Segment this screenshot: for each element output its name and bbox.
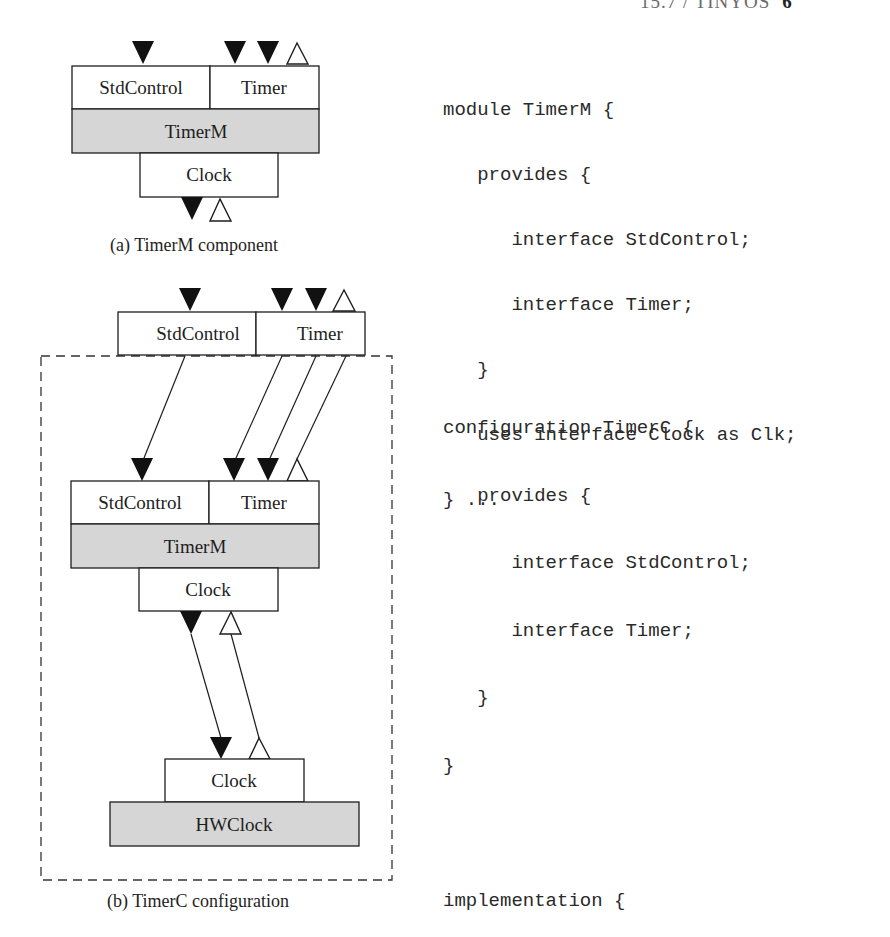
event-triangle-icon xyxy=(210,199,231,221)
wire-timer-command xyxy=(236,356,282,458)
provided-command-triangle-icon xyxy=(131,458,153,481)
interface-label: Clock xyxy=(186,164,232,185)
interface-label: StdControl xyxy=(99,77,182,98)
provided-command-triangle-icon xyxy=(257,458,279,481)
code-line xyxy=(443,823,831,847)
component-label: TimerM xyxy=(165,121,228,142)
provided-command-triangle-icon xyxy=(223,458,245,481)
component-label: TimerM xyxy=(164,536,227,557)
used-command-triangle-icon xyxy=(180,611,202,634)
interface-label: Timer xyxy=(241,492,287,513)
interface-label: Timer xyxy=(297,323,343,344)
provided-command-triangle-icon xyxy=(210,737,232,759)
code-line: interface Timer; xyxy=(443,620,831,644)
code-line: interface StdControl; xyxy=(443,230,796,251)
provided-command-triangle-icon xyxy=(224,41,246,64)
provided-command-triangle-icon xyxy=(179,288,201,311)
wire-timer-event xyxy=(297,356,346,459)
interface-label: Clock xyxy=(211,770,257,791)
code-line: } xyxy=(443,687,831,711)
figure-a-caption: (a) TimerM component xyxy=(110,235,278,256)
provided-command-triangle-icon xyxy=(271,288,293,311)
code-line: implementation { xyxy=(443,890,831,914)
code-listing-configuration-timerc: configuration TimerC { provides { interf… xyxy=(443,373,831,937)
interface-label: Clock xyxy=(185,579,231,600)
used-command-triangle-icon xyxy=(181,197,203,220)
wire-stdcontrol xyxy=(144,356,185,458)
event-triangle-icon xyxy=(287,43,308,64)
code-line: provides { xyxy=(443,165,796,186)
interface-label: StdControl xyxy=(98,492,181,513)
code-line: provides { xyxy=(443,485,831,509)
wire-clock-event xyxy=(231,634,259,738)
figure-b-caption: (b) TimerC configuration xyxy=(107,891,289,912)
component-label: HWClock xyxy=(195,814,273,835)
event-triangle-icon xyxy=(220,612,241,634)
interface-label: StdControl xyxy=(156,323,239,344)
wire-clock-command xyxy=(191,634,221,738)
event-triangle-icon xyxy=(333,290,355,311)
provided-command-triangle-icon xyxy=(257,41,279,64)
figure-a-timerm-component: StdControl Timer TimerM Clock xyxy=(72,41,319,221)
event-triangle-icon xyxy=(249,738,270,759)
provided-command-triangle-icon xyxy=(132,41,154,64)
code-line: configuration TimerC { xyxy=(443,417,831,441)
event-triangle-icon xyxy=(287,459,308,481)
provided-command-triangle-icon xyxy=(305,288,327,311)
figure-b-timerc-configuration: StdControl Timer StdControl Timer TimerM… xyxy=(41,288,392,880)
wire-timer-command xyxy=(270,356,316,458)
code-line: interface StdControl; xyxy=(443,552,831,576)
code-line: } xyxy=(443,755,831,779)
code-line: module TimerM { xyxy=(443,100,796,121)
interface-label: Timer xyxy=(241,77,287,98)
code-line: interface Timer; xyxy=(443,295,796,316)
